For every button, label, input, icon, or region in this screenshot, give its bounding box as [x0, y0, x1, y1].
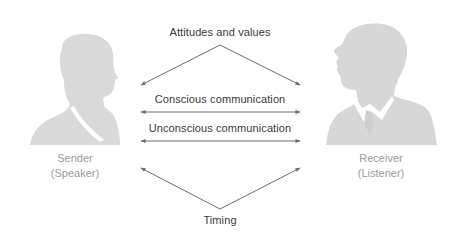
conscious-label: Conscious communication [155, 93, 286, 105]
communication-diagram: Attitudes and values Conscious communica… [0, 0, 462, 243]
unconscious-label: Unconscious communication [149, 122, 292, 134]
sender-name: Sender [51, 151, 99, 166]
timing-arrows [141, 168, 300, 209]
sender-role: (Speaker) [51, 166, 99, 181]
timing-label: Timing [203, 214, 236, 226]
attitudes-label: Attitudes and values [169, 26, 270, 38]
receiver-name: Receiver [358, 151, 404, 166]
receiver-label-group: Receiver (Listener) [358, 151, 404, 181]
attitudes-arrows [141, 45, 300, 85]
sender-label-group: Sender (Speaker) [51, 151, 99, 181]
male-silhouette-icon [326, 24, 437, 145]
female-silhouette-icon [30, 34, 120, 145]
receiver-role: (Listener) [358, 166, 404, 181]
